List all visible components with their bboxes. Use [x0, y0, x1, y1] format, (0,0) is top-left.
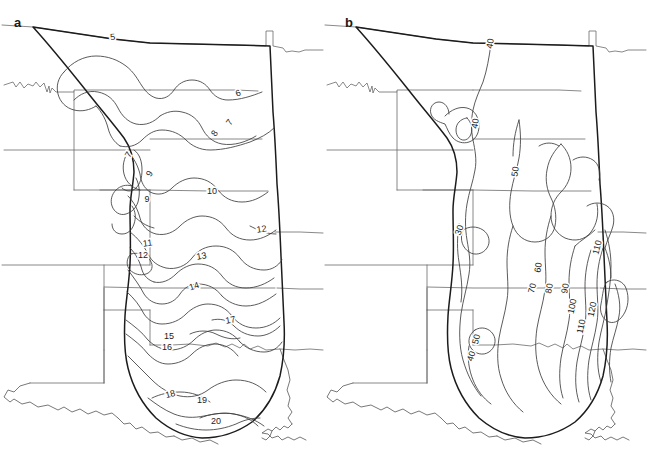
figure-container: a	[0, 0, 647, 453]
contour-label: 30	[453, 224, 466, 237]
panel-a-map: 5566778877999910101212111112121313141417…	[0, 0, 324, 453]
contour-label: 40	[469, 118, 481, 130]
panel-b: b	[323, 0, 647, 453]
contour-label: 60	[532, 262, 544, 274]
coastline-b	[327, 349, 629, 444]
contour-label: 16	[162, 342, 172, 352]
contour-label: 80	[543, 282, 555, 294]
contour-label: 90	[559, 282, 571, 294]
contour-labels-a: 5566778877999910101212111112121313141417…	[110, 32, 268, 426]
contour-label: 40	[465, 350, 478, 363]
contour-label: 50	[509, 166, 521, 178]
contour-labels-b: 4040404050503030606011011070708080909010…	[453, 38, 604, 363]
contour-label: 40	[484, 38, 496, 50]
contour-label: 120	[586, 301, 599, 318]
contour-label: 14	[188, 280, 201, 293]
aquifer-boundary-b	[356, 27, 607, 438]
contour-label: 70	[526, 282, 538, 294]
contour-label: 11	[142, 237, 153, 248]
contour-label: 18	[164, 388, 176, 400]
contour-label: 110	[575, 318, 588, 334]
contour-label: 5	[110, 32, 116, 42]
contour-label: 8	[209, 128, 220, 138]
contour-label: 9	[144, 194, 149, 204]
contour-label: 13	[196, 250, 208, 262]
contour-label: 100	[566, 298, 579, 315]
contour-label: 19	[197, 395, 207, 405]
contour-label: 12	[256, 223, 267, 234]
panel-b-map: 4040404050503030606011011070708080909010…	[323, 0, 647, 453]
contour-label: 15	[164, 331, 174, 341]
contour-label: 6	[234, 88, 242, 99]
contour-label: 20	[211, 416, 221, 426]
contours-a	[57, 56, 282, 430]
panel-b-letter: b	[345, 15, 353, 30]
contour-label: 12	[138, 250, 148, 260]
contour-label: 10	[207, 186, 217, 196]
contour-label: 17	[225, 314, 237, 326]
contour-label: 50	[470, 333, 482, 345]
aquifer-boundary-a	[33, 27, 284, 438]
contour-label: 9	[144, 169, 155, 178]
contour-label: 7	[224, 117, 235, 127]
panel-a: a	[0, 0, 324, 453]
panel-a-letter: a	[14, 15, 21, 30]
state-boundaries-b	[325, 25, 646, 383]
state-boundaries-a	[2, 25, 323, 383]
